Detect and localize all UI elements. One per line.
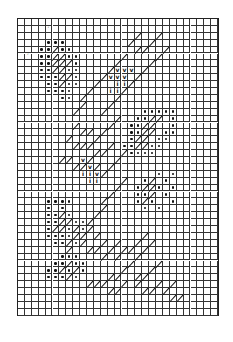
grid-cell bbox=[108, 123, 115, 130]
grid-cell bbox=[135, 164, 142, 171]
grid-cell bbox=[191, 192, 198, 199]
grid-cell bbox=[122, 33, 129, 40]
grid-cell bbox=[94, 267, 101, 274]
grid-cell bbox=[128, 288, 135, 295]
grid-cell bbox=[163, 143, 170, 150]
grid-cell bbox=[18, 150, 25, 157]
dot-symbol-icon bbox=[59, 254, 65, 260]
grid-cell bbox=[149, 136, 156, 143]
grid-cell bbox=[122, 281, 129, 288]
grid-cell bbox=[59, 102, 66, 109]
grid-cell bbox=[80, 67, 87, 74]
grid-cell bbox=[39, 233, 46, 240]
grid-cell bbox=[204, 157, 211, 164]
grid-cell bbox=[39, 157, 46, 164]
grid-cell bbox=[184, 129, 191, 136]
grid-cell bbox=[156, 81, 163, 88]
grid-cell bbox=[197, 109, 204, 116]
grid-cell bbox=[122, 178, 129, 185]
grid-cell bbox=[170, 136, 177, 143]
grid-cell bbox=[135, 226, 142, 233]
grid-cell bbox=[108, 47, 115, 54]
grid-cell bbox=[59, 309, 66, 316]
grid-cell bbox=[115, 198, 122, 205]
grid-cell bbox=[32, 129, 39, 136]
grid-cell bbox=[142, 26, 149, 33]
slash-symbol-icon bbox=[87, 226, 93, 232]
grid-cell bbox=[156, 302, 163, 309]
grid-cell bbox=[39, 40, 46, 47]
grid-cell bbox=[177, 185, 184, 192]
grid-cell bbox=[39, 95, 46, 102]
grid-cell bbox=[39, 123, 46, 130]
dot-symbol-icon bbox=[46, 219, 52, 225]
slash-symbol-icon bbox=[53, 67, 59, 73]
grid-cell bbox=[108, 40, 115, 47]
grid-cell bbox=[135, 219, 142, 226]
grid-cell bbox=[80, 261, 87, 268]
dot-symbol-icon bbox=[66, 267, 72, 273]
grid-cell bbox=[101, 261, 108, 268]
grid-cell bbox=[163, 102, 170, 109]
grid-cell bbox=[80, 33, 87, 40]
slash-symbol-icon bbox=[94, 247, 100, 253]
grid-cell bbox=[204, 136, 211, 143]
dot-symbol-icon bbox=[59, 198, 65, 204]
grid-cell bbox=[177, 261, 184, 268]
grid-cell bbox=[115, 109, 122, 116]
grid-cell bbox=[80, 198, 87, 205]
grid-cell bbox=[128, 185, 135, 192]
grid-cell bbox=[163, 67, 170, 74]
dot-symbol-icon bbox=[46, 67, 52, 73]
grid-cell bbox=[18, 295, 25, 302]
grid-cell bbox=[66, 198, 73, 205]
grid-cell bbox=[87, 60, 94, 67]
grid-cell bbox=[46, 302, 53, 309]
grid-cell bbox=[25, 150, 32, 157]
dot-symbol-icon bbox=[163, 178, 169, 184]
grid-cell bbox=[59, 198, 66, 205]
slash-symbol-icon bbox=[115, 240, 121, 246]
grid-cell bbox=[18, 233, 25, 240]
grid-cell bbox=[177, 74, 184, 81]
grid-cell bbox=[170, 74, 177, 81]
grid-cell bbox=[73, 247, 80, 254]
grid-cell bbox=[73, 136, 80, 143]
dot-symbol-icon bbox=[59, 40, 65, 46]
grid-cell bbox=[204, 185, 211, 192]
grid-cell bbox=[25, 240, 32, 247]
grid-cell bbox=[39, 295, 46, 302]
slash-symbol-icon bbox=[142, 198, 148, 204]
grid-cell bbox=[197, 19, 204, 26]
slash-symbol-icon bbox=[73, 226, 79, 232]
grid-cell bbox=[59, 178, 66, 185]
grid-cell bbox=[39, 198, 46, 205]
grid-cell bbox=[156, 240, 163, 247]
slash-symbol-icon bbox=[66, 247, 72, 253]
grid-cell bbox=[184, 143, 191, 150]
dot-symbol-icon bbox=[142, 178, 148, 184]
grid-cell bbox=[156, 74, 163, 81]
grid-cell bbox=[101, 33, 108, 40]
grid-cell bbox=[32, 109, 39, 116]
dot-symbol-icon bbox=[66, 254, 72, 260]
grid-cell bbox=[170, 198, 177, 205]
grid-cell bbox=[101, 219, 108, 226]
grid-cell bbox=[142, 19, 149, 26]
slash-symbol-icon bbox=[101, 240, 107, 246]
grid-cell bbox=[211, 267, 218, 274]
grid-cell bbox=[149, 219, 156, 226]
grid-cell bbox=[128, 171, 135, 178]
grid-cell bbox=[66, 19, 73, 26]
grid-cell bbox=[101, 240, 108, 247]
grid-cell bbox=[197, 233, 204, 240]
grid-cell bbox=[184, 261, 191, 268]
slash-symbol-icon bbox=[149, 178, 155, 184]
grid-cell bbox=[25, 309, 32, 316]
slash-symbol-icon bbox=[101, 109, 107, 115]
grid-cell bbox=[39, 309, 46, 316]
grid-cell bbox=[59, 88, 66, 95]
dot-symbol-icon bbox=[128, 136, 134, 142]
grid-cell bbox=[18, 192, 25, 199]
grid-cell bbox=[115, 171, 122, 178]
